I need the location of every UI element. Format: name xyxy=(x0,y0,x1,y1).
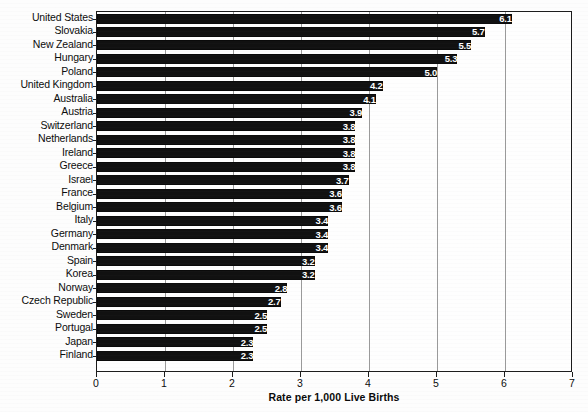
bar-value-label: 3.6 xyxy=(97,202,344,213)
bar-row: 3.2 xyxy=(97,256,573,266)
bar-row: 2.8 xyxy=(97,283,573,293)
category-label: Slovakia xyxy=(0,25,93,36)
bar-row: 5.3 xyxy=(97,54,573,64)
category-label: United Kingdom xyxy=(0,79,93,90)
bar-row: 3.8 xyxy=(97,121,573,131)
category-label: Poland xyxy=(0,66,93,77)
category-label: France xyxy=(0,187,93,198)
bar-row: 3.7 xyxy=(97,175,573,185)
bar-value-label: 4.1 xyxy=(97,94,378,105)
bar-value-label: 3.8 xyxy=(97,161,357,172)
category-label: Switzerland xyxy=(0,120,93,131)
category-tick xyxy=(93,86,97,87)
bar-row: 3.4 xyxy=(97,216,573,226)
bar-row: 3.8 xyxy=(97,162,573,172)
bar-value-label: 2.3 xyxy=(97,350,255,361)
category-label: Greece xyxy=(0,160,93,171)
bar-value-label: 2.7 xyxy=(97,296,283,307)
bar-row: 6.1 xyxy=(97,14,573,24)
category-tick xyxy=(93,221,97,222)
x-axis-tick-label: 2 xyxy=(229,377,235,389)
bar-value-label: 2.3 xyxy=(97,337,255,348)
bar-value-label: 2.8 xyxy=(97,283,289,294)
bar-value-label: 3.9 xyxy=(97,107,364,118)
bar-row: 3.6 xyxy=(97,189,573,199)
x-axis-tick-label: 4 xyxy=(365,377,371,389)
category-label: Australia xyxy=(0,93,93,104)
bar-row: 3.8 xyxy=(97,148,573,158)
bars-layer: 6.15.75.55.35.04.24.13.93.83.83.83.83.73… xyxy=(97,12,571,371)
x-axis-tick-label: 0 xyxy=(93,377,99,389)
category-tick xyxy=(93,207,97,208)
bar-row: 5.0 xyxy=(97,67,573,77)
category-tick xyxy=(93,194,97,195)
bar-row: 2.5 xyxy=(97,310,573,320)
plot-area: 6.15.75.55.35.04.24.13.93.83.83.83.83.73… xyxy=(96,11,572,372)
bar-row: 3.4 xyxy=(97,243,573,253)
category-tick xyxy=(93,329,97,330)
bar-value-label: 3.6 xyxy=(97,188,344,199)
category-label: Austria xyxy=(0,106,93,117)
bar-value-label: 3.8 xyxy=(97,134,357,145)
category-tick xyxy=(93,342,97,343)
bar-value-label: 3.2 xyxy=(97,256,317,267)
category-label: New Zealand xyxy=(0,39,93,50)
category-label: Korea xyxy=(0,268,93,279)
bar-value-label: 3.4 xyxy=(97,215,330,226)
category-tick xyxy=(93,315,97,316)
category-label: Hungary xyxy=(0,52,93,63)
category-label: United States xyxy=(0,12,93,23)
category-tick xyxy=(93,234,97,235)
category-tick xyxy=(93,167,97,168)
category-tick xyxy=(93,261,97,262)
bar-value-label: 5.0 xyxy=(97,67,439,78)
bar-value-label: 5.3 xyxy=(97,53,459,64)
x-axis-tick-label: 3 xyxy=(297,377,303,389)
bar-row: 3.2 xyxy=(97,270,573,280)
bar-row: 4.2 xyxy=(97,81,573,91)
bar-value-label: 3.4 xyxy=(97,229,330,240)
category-label: Netherlands xyxy=(0,133,93,144)
category-label: Norway xyxy=(0,282,93,293)
x-axis-tick-label: 5 xyxy=(433,377,439,389)
category-tick xyxy=(93,113,97,114)
bar-row: 4.1 xyxy=(97,94,573,104)
bar-row: 3.6 xyxy=(97,202,573,212)
bar-row: 2.3 xyxy=(97,351,573,361)
bar-row: 2.3 xyxy=(97,337,573,347)
category-label: Ireland xyxy=(0,147,93,158)
bar-value-label: 3.2 xyxy=(97,269,317,280)
category-label: Denmark xyxy=(0,241,93,252)
bar-value-label: 2.5 xyxy=(97,310,269,321)
bar-value-label: 6.1 xyxy=(97,13,514,24)
bar-row: 3.8 xyxy=(97,135,573,145)
x-axis-tick-label: 1 xyxy=(161,377,167,389)
category-tick xyxy=(93,72,97,73)
category-tick xyxy=(93,126,97,127)
bar-value-label: 3.4 xyxy=(97,242,330,253)
category-label: Finland xyxy=(0,349,93,360)
bar-value-label: 5.7 xyxy=(97,26,487,37)
category-label: Japan xyxy=(0,336,93,347)
bar-chart: United StatesSlovakiaNew ZealandHungaryP… xyxy=(0,0,588,412)
bar-row: 5.7 xyxy=(97,27,573,37)
category-tick xyxy=(93,180,97,181)
bar-row: 5.5 xyxy=(97,40,573,50)
bar-value-label: 3.8 xyxy=(97,148,357,159)
category-tick xyxy=(93,99,97,100)
category-label: Czech Republic xyxy=(0,295,93,306)
category-label: Germany xyxy=(0,228,93,239)
category-label: Italy xyxy=(0,214,93,225)
x-axis-tick-label: 6 xyxy=(501,377,507,389)
category-tick xyxy=(93,140,97,141)
category-tick xyxy=(93,45,97,46)
category-tick xyxy=(93,275,97,276)
bar-row: 3.4 xyxy=(97,229,573,239)
x-axis-title: Rate per 1,000 Live Births xyxy=(96,391,572,403)
x-axis-tick-label: 7 xyxy=(569,377,575,389)
category-tick xyxy=(93,32,97,33)
bar-value-label: 3.7 xyxy=(97,175,351,186)
category-tick xyxy=(93,356,97,357)
bar-value-label: 5.5 xyxy=(97,40,473,51)
category-tick xyxy=(93,248,97,249)
